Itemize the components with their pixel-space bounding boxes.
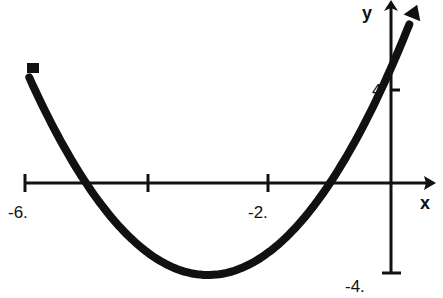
x-axis-label: x [420, 194, 430, 212]
y-axis [382, 0, 401, 273]
parabola-graph [0, 0, 443, 298]
curve-arrowhead-icon [404, 5, 421, 21]
y-tick-label-neg4: -4. [345, 278, 365, 295]
curve-start-cap [27, 63, 39, 73]
y-tick-label-4: 4 [372, 82, 381, 99]
parabola-curve [27, 5, 420, 275]
x-tick-label-neg6: -6. [8, 204, 28, 221]
y-axis-label: y [362, 4, 372, 22]
x-tick-label-neg2: -2. [248, 204, 268, 221]
